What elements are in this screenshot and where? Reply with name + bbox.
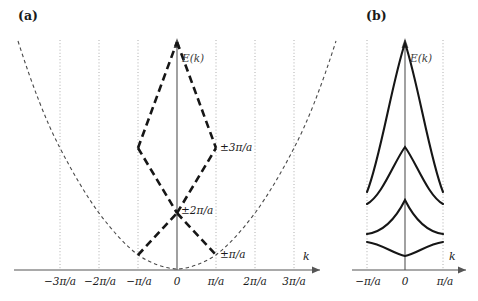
- panel-a-folded-band-bottom-right: [138, 213, 177, 255]
- panel-b-energy-axis: [402, 38, 409, 270]
- panel-a-tick-zero: 0: [165, 275, 189, 287]
- panel-a-energy-axis-label: E(k): [182, 52, 204, 64]
- panel-a-tick-3pi-over-a: 3π/a: [268, 275, 320, 287]
- panel-b-tick-pi-over-a: π/a: [424, 275, 466, 287]
- panel-a-annotation-3pi-over-a: ±3π/a: [220, 141, 252, 153]
- panel-a-folded-band-upper-left: [138, 42, 177, 148]
- panel-b-k-axis: [352, 267, 466, 274]
- panel-b-energy-axis-label: E(k): [410, 52, 432, 64]
- panel-a-folded-band-bottom-left: [177, 213, 216, 255]
- panel-a-annotation-pi-over-a: ±π/a: [220, 248, 246, 260]
- panel-a-folded-band-lower-left: [138, 148, 177, 213]
- panel-a-k-axis-label: k: [303, 250, 310, 263]
- panel-a-tick-minus-pi-over-a: −π/a: [111, 275, 167, 287]
- panel-b-tick-minus-pi-over-a: −π/a: [340, 275, 396, 287]
- panel-a-annotation-2pi-over-a: ±2π/a: [181, 204, 213, 216]
- panel-b-tick-zero: 0: [393, 275, 417, 287]
- physics-band-structure-figure: (a) (b): [0, 0, 478, 301]
- panel-b-k-axis-label: k: [449, 250, 456, 263]
- panel-a-energy-axis: [174, 38, 181, 270]
